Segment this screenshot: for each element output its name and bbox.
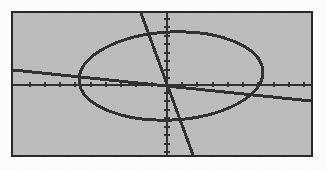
calculator-viewport bbox=[11, 11, 313, 157]
plot-canvas bbox=[13, 13, 311, 155]
screenshot-root bbox=[0, 0, 325, 170]
ellipse-curve bbox=[77, 27, 265, 125]
